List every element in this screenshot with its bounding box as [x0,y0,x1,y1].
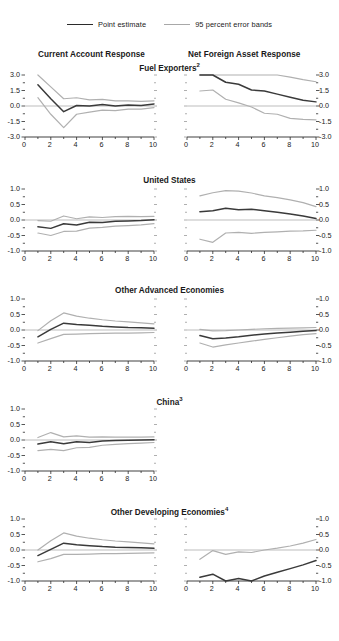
column-header-current-account: Current Account Response [38,50,145,59]
column-header-net-foreign-asset: Net Foreign Asset Response [188,50,300,59]
column-headers: Current Account Response Net Foreign Ass… [0,50,339,62]
x-axis-label-right-4: 8 [282,141,296,148]
x-axis-label-left-4: 8 [120,365,134,372]
x-axis-label-right-2: 4 [231,141,245,148]
chart-row-china: China31.00.50.0-0.5-1.00246810 [0,396,339,500]
chart-page: Point estimate 95 percent error bands Cu… [0,0,339,641]
y-axis-label-left-0: 1.0 [2,515,20,522]
row-title-footnote-fuel-exporters: 2 [197,62,200,68]
series-lower-95-percent-band-right [200,230,316,242]
y-axis-label-right-1: 0.5 [319,531,339,538]
y-axis-label-right-1: 1.5 [319,87,339,94]
x-axis-label-left-3: 6 [94,141,108,148]
y-axis-label-right-3: -1.5 [319,118,339,125]
x-axis-label-left-1: 2 [43,141,57,148]
series-lower-95-percent-band-left [38,442,154,450]
x-axis-label-left-1: 2 [43,585,57,592]
plot-svg-fuel-exporters-left [24,75,155,147]
y-axis-label-right-4: -1.0 [319,357,339,364]
series-lower-95-percent-band-left [38,553,154,562]
y-axis-label-left-4: -1.0 [2,247,20,254]
row-title-other-developing-economies: Other Developing Economies4 [0,506,339,517]
plot-area-other-advanced-economies-left: 1.00.50.0-0.5-1.00246810 [24,299,153,361]
y-axis-label-right-0: 1.0 [319,185,339,192]
x-axis-label-right-0: 0 [179,585,193,592]
row-title-united-states: United States [0,176,339,185]
y-axis-label-left-3: -0.5 [2,452,20,459]
y-axis-label-right-4: -1.0 [319,577,339,584]
y-axis-label-left-4: -1.0 [2,357,20,364]
x-axis-label-right-1: 2 [205,365,219,372]
y-axis-label-left-4: -1.0 [2,577,20,584]
plot-area-united-states-right: 1.00.50.0-0.5-1.00246810 [186,189,315,251]
y-axis-label-left-1: 0.5 [2,421,20,428]
y-axis-label-right-2: 0.0 [319,546,339,553]
panel-china-left: 1.00.50.0-0.5-1.00246810 [24,409,153,471]
y-axis-label-right-2: 0.0 [319,326,339,333]
y-axis-label-left-2: 0.0 [2,326,20,333]
row-title-fuel-exporters: Fuel Exporters2 [0,62,339,73]
plot-svg-other-developing-economies-right [186,519,317,591]
x-axis-label-left-2: 4 [69,475,83,482]
y-axis-label-right-0: 3.0 [319,71,339,78]
x-axis-label-right-4: 8 [282,365,296,372]
row-title-footnote-other-developing-economies: 4 [225,506,228,512]
legend-item-point-estimate: Point estimate [67,20,146,29]
x-axis-label-left-2: 4 [69,585,83,592]
x-axis-label-left-1: 2 [43,255,57,262]
panel-united-states-right: 1.00.50.0-0.5-1.00246810 [186,189,315,251]
legend-swatch-error-bands [164,24,190,25]
y-axis-label-left-2: 0.0 [2,436,20,443]
x-axis-label-right-1: 2 [205,141,219,148]
x-axis-label-right-3: 6 [256,365,270,372]
x-axis-label-left-3: 6 [94,475,108,482]
x-axis-label-right-5: 10 [308,585,322,592]
x-axis-label-right-5: 10 [308,365,322,372]
y-axis-label-left-3: -0.5 [2,342,20,349]
x-axis-label-right-0: 0 [179,365,193,372]
series-point-estimate-left [38,85,154,112]
y-axis-label-left-3: -0.5 [2,562,20,569]
x-axis-label-left-4: 8 [120,475,134,482]
x-axis-label-left-0: 0 [17,365,31,372]
y-axis-label-left-1: 1.5 [2,87,20,94]
y-axis-label-right-3: -0.5 [319,342,339,349]
x-axis-label-left-3: 6 [94,365,108,372]
series-point-estimate-right [200,208,316,218]
x-axis-label-right-1: 2 [205,585,219,592]
series-upper-95-percent-band-right [200,191,316,207]
x-axis-label-left-0: 0 [17,475,31,482]
y-axis-label-left-2: 0.0 [2,102,20,109]
y-axis-label-left-3: -1.5 [2,118,20,125]
x-axis-label-left-2: 4 [69,255,83,262]
row-title-footnote-china: 3 [179,396,182,402]
series-upper-95-percent-band-right [200,539,316,559]
legend-label-point-estimate: Point estimate [98,20,146,29]
x-axis-label-left-4: 8 [120,585,134,592]
plot-svg-united-states-right [186,189,317,261]
y-axis-label-left-0: 1.0 [2,295,20,302]
y-axis-label-right-0: 1.0 [319,295,339,302]
panel-other-developing-economies-left: 1.00.50.0-0.5-1.00246810 [24,519,153,581]
series-upper-95-percent-band-left [38,75,154,101]
panel-united-states-left: 1.00.50.0-0.5-1.00246810 [24,189,153,251]
y-axis-label-left-1: 0.5 [2,201,20,208]
y-axis-label-right-3: -0.5 [319,562,339,569]
y-axis-label-right-0: 1.0 [319,515,339,522]
x-axis-label-left-0: 0 [17,585,31,592]
y-axis-label-left-0: 1.0 [2,405,20,412]
y-axis-label-left-1: 0.5 [2,311,20,318]
plot-svg-fuel-exporters-right [186,75,317,147]
panel-fuel-exporters-left: 3.01.50.0-1.5-3.00246810 [24,75,153,137]
series-point-estimate-left [38,220,154,229]
series-lower-95-percent-band-right [200,90,316,120]
x-axis-label-left-2: 4 [69,141,83,148]
panel-other-advanced-economies-left: 1.00.50.0-0.5-1.00246810 [24,299,153,361]
plot-area-fuel-exporters-left: 3.01.50.0-1.5-3.00246810 [24,75,153,137]
x-axis-label-left-5: 10 [146,585,160,592]
plot-svg-china-left [24,409,155,481]
plot-area-china-left: 1.00.50.0-0.5-1.00246810 [24,409,153,471]
x-axis-label-left-0: 0 [17,255,31,262]
x-axis-label-right-2: 4 [231,255,245,262]
y-axis-label-left-2: 0.0 [2,216,20,223]
